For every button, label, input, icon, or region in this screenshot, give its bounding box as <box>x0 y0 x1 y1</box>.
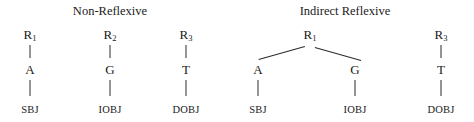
panel-title-non-reflexive: Non-Reflexive <box>73 4 147 18</box>
edge-r1-to-a-left <box>30 45 31 58</box>
node-r3-left: R3 <box>180 28 193 42</box>
node-t-left: T <box>182 63 190 77</box>
node-r1-right-label: R <box>304 27 313 42</box>
tree-diagram-figure: Non-Reflexive R1 A SBJ R2 G IOBJ R3 T DO… <box>0 0 474 122</box>
node-r2-left: R2 <box>104 28 117 42</box>
edge-r3-to-t-right <box>441 45 442 58</box>
node-r1-right-subscript: 1 <box>312 33 316 43</box>
node-r2-left-subscript: 2 <box>112 33 116 43</box>
leaf-iobj-left: IOBJ <box>99 104 122 116</box>
leaf-sbj-right: SBJ <box>249 104 267 116</box>
edge-t-to-dobj-left <box>186 80 187 96</box>
edge-r1-to-g-right <box>315 47 361 61</box>
node-r3-right-label: R <box>435 27 444 42</box>
node-r3-left-subscript: 3 <box>188 33 192 43</box>
edge-r1-to-a-right <box>259 46 305 60</box>
edge-g-to-iobj-right <box>355 80 356 96</box>
node-a-right: A <box>253 63 262 77</box>
edge-g-to-iobj-left <box>110 80 111 96</box>
node-g-right: G <box>350 63 359 77</box>
leaf-sbj-left: SBJ <box>21 104 39 116</box>
node-r2-left-label: R <box>104 27 113 42</box>
node-r3-left-label: R <box>180 27 189 42</box>
node-r1-left-subscript: 1 <box>32 33 36 43</box>
leaf-dobj-left: DOBJ <box>172 104 199 116</box>
panel-title-indirect-reflexive: Indirect Reflexive <box>300 4 391 18</box>
node-r1-left-label: R <box>24 27 33 42</box>
node-r1-right: R1 <box>304 28 317 42</box>
node-r3-right-subscript: 3 <box>443 33 447 43</box>
node-r1-left: R1 <box>24 28 37 42</box>
edge-t-to-dobj-right <box>441 80 442 96</box>
leaf-dobj-right: DOBJ <box>427 104 454 116</box>
edge-r2-to-g-left <box>110 45 111 58</box>
node-r3-right: R3 <box>435 28 448 42</box>
edge-r3-to-t-left <box>186 45 187 58</box>
node-t-right: T <box>437 63 445 77</box>
leaf-iobj-right: IOBJ <box>344 104 367 116</box>
edge-a-to-sbj-right <box>258 80 259 96</box>
edge-a-to-sbj-left <box>30 80 31 96</box>
node-a-left: A <box>25 63 34 77</box>
node-g-left: G <box>105 63 114 77</box>
